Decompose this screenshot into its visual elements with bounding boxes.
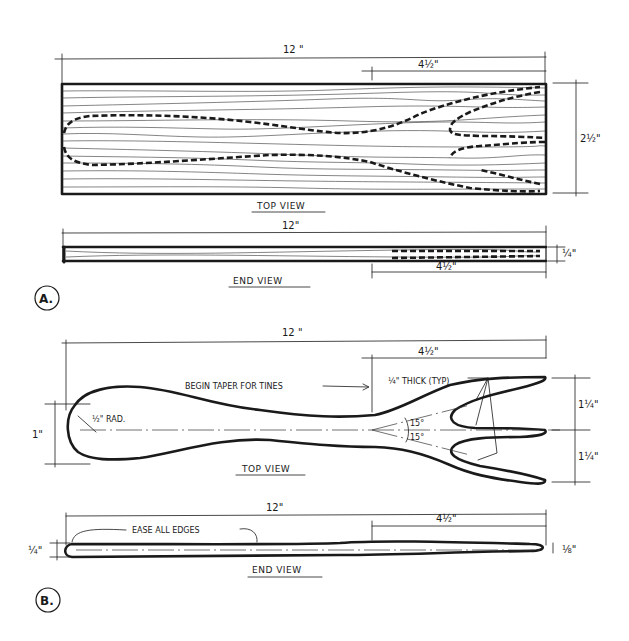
dim-label-1-8: ⅛" [562,544,576,555]
dim-label-1-4: ¼" [562,248,576,259]
dimension-overall-length [66,514,546,516]
dim-label-12: 12 " [283,44,304,55]
dim-label-4-1-2: 4½" [418,346,439,357]
dimension-tine-length: 4½" [362,59,546,80]
dimension-width: 2½" [553,80,601,196]
fork-side-profile [65,541,543,557]
ease-edges-note: EASE ALL EDGES [132,526,200,535]
dimension-overall-length [62,232,546,233]
figure-b-label: B. [40,594,54,608]
dim-label-2-1-2: 2½" [580,133,601,144]
figure-b-badge: B. [36,588,60,612]
dim-label-12: 12" [282,220,299,231]
view-title-end-view-b: END VIEW [252,565,302,575]
figure-a-label: A. [39,292,53,306]
view-title-end-view-a: END VIEW [233,276,283,286]
figure-a-end-view: 12" ¼" 4½" [62,220,576,278]
ease-leader-left [72,529,126,542]
dim-label-4-1-2: 4½" [436,513,457,524]
thickness-leaders [468,378,497,460]
dim-label-12: 12 " [282,327,303,338]
dim-label-1-4: ¼" [28,545,42,556]
taper-leader [323,386,368,387]
tine-thickness-note: ¼" THICK (TYP) [388,377,449,386]
dimension-overall-length [62,340,546,343]
view-title-top-view-a: TOP VIEW [256,201,305,211]
view-title-top-view-b: TOP VIEW [241,464,290,474]
dim-label-4-1-2: 4½" [436,261,457,272]
dim-label-1: 1" [32,429,43,440]
dim-label-4-1-2: 4½" [418,59,439,70]
figure-b-top-view: 12 " 4½" ½" RAD. 1" BEGIN TAPER FOR TINE… [32,327,599,485]
fork-plan-drawing: 12 " 4½" 2½" [0,0,629,641]
angle-lower: 15° [410,433,424,442]
figure-a-top-view: 12 " 4½" 2½" [55,44,601,196]
wood-grain [62,87,545,189]
angle-upper: 15° [410,419,424,428]
fork-layout-dashed-outline [64,87,545,191]
radius-note: ½" RAD. [92,415,125,424]
board-edge-outline [63,247,546,261]
dim-label-1-1-4-upper: 1¼" [578,399,599,410]
dim-label-12: 12" [266,502,283,513]
dimension-overall-length: 12 " [55,44,546,84]
figure-a-badge: A. [35,286,59,310]
ease-leader-right [240,529,257,542]
taper-note: BEGIN TAPER FOR TINES [185,382,283,391]
dim-label-1-1-4-lower: 1¼" [578,451,599,462]
figure-b-end-view: 12" 4½" EASE ALL EDGES ¼" ⅛" [28,502,576,560]
